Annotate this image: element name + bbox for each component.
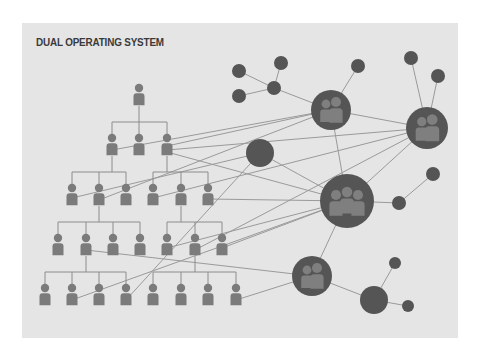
person-icon (231, 284, 242, 305)
person-icon (176, 284, 187, 305)
person-icon (67, 184, 78, 205)
person-icon (190, 234, 201, 255)
person-icon (148, 284, 159, 305)
person-icon (176, 184, 187, 205)
network-edge (167, 128, 427, 150)
person-icon (148, 184, 159, 205)
network-node (402, 300, 414, 312)
person-icon (94, 284, 105, 305)
network-node (360, 286, 388, 314)
network-node (351, 59, 365, 73)
person-icon (217, 234, 228, 255)
network-node (232, 89, 246, 103)
network-node (232, 64, 246, 78)
person-icon (310, 263, 323, 289)
diagram-canvas (0, 0, 478, 357)
person-icon (67, 284, 78, 305)
person-icon (162, 234, 173, 255)
team-node-icon (311, 90, 351, 130)
person-icon (121, 184, 132, 205)
person-icon (340, 187, 354, 214)
person-icon (108, 234, 119, 255)
person-icon (135, 234, 146, 255)
person-icon (203, 284, 214, 305)
network-node (431, 69, 445, 83)
person-icon (134, 84, 145, 105)
person-icon (425, 114, 439, 141)
person-icon (94, 184, 105, 205)
network-node (246, 139, 274, 167)
network-node (267, 81, 281, 95)
person-icon (134, 134, 145, 155)
team-node-icon (406, 107, 448, 149)
person-icon (203, 184, 214, 205)
person-icon (107, 134, 118, 155)
network-edge (112, 110, 331, 150)
person-icon (121, 284, 132, 305)
person-icon (162, 134, 173, 155)
network-edge (195, 128, 427, 250)
network-node (274, 56, 288, 70)
person-icon (81, 234, 92, 255)
person-icon (329, 97, 342, 123)
person-icon (53, 234, 64, 255)
network-node (426, 167, 440, 181)
network-edge (167, 110, 331, 146)
network-node (404, 51, 418, 65)
team-node-icon (292, 256, 332, 296)
network-node (392, 196, 406, 210)
person-icon (40, 284, 51, 305)
network-node (389, 257, 401, 269)
team-node-icon (320, 174, 374, 228)
network-edges (72, 58, 438, 306)
